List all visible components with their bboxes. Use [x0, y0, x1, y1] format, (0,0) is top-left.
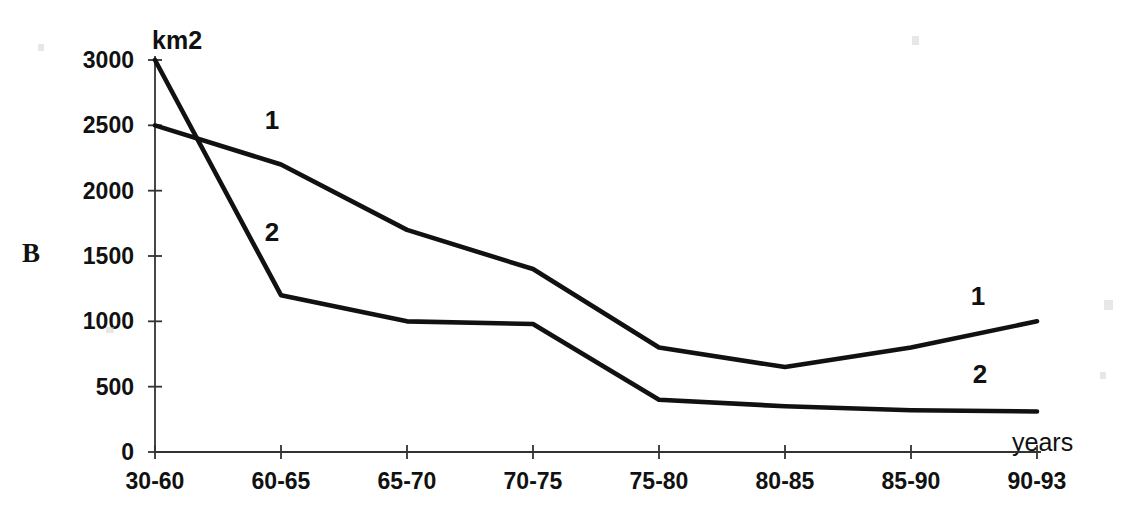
chart-page: B km2 years 050010001500200025003000 30-…	[0, 0, 1121, 517]
scan-speck	[106, 327, 114, 333]
plot-area	[0, 0, 1121, 517]
axis-lines	[148, 56, 1041, 459]
scan-speck	[1104, 300, 1113, 310]
data-line-series-1	[155, 125, 1037, 367]
data-lines	[155, 60, 1037, 411]
scan-speck	[1100, 372, 1106, 379]
scan-speck	[38, 44, 44, 51]
data-line-series-2	[155, 60, 1037, 411]
scan-speck	[912, 36, 919, 45]
